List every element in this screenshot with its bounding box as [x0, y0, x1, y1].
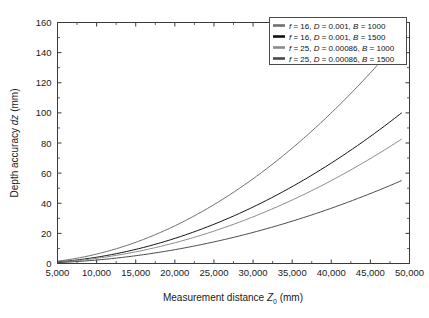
x-tick-label: 20,000	[160, 267, 189, 278]
y-tick-label: 20	[41, 228, 52, 239]
x-axis-title: Measurement distance Z0 (mm)	[163, 292, 303, 305]
y-tick-label: 160	[36, 17, 52, 28]
legend-label-3: f = 25, D = 0.00086, B = 1500	[289, 55, 395, 64]
y-tick-label: 0	[46, 258, 51, 269]
x-tick-label: 45,000	[356, 267, 385, 278]
y-tick-label: 100	[36, 107, 52, 118]
x-tick-label: 10,000	[82, 267, 111, 278]
x-tick-label: 35,000	[278, 267, 307, 278]
legend-label-0: f = 16, D = 0.001, B = 1000	[289, 22, 386, 31]
x-tick-label: 25,000	[199, 267, 228, 278]
y-tick-label: 140	[36, 47, 52, 58]
x-tick-label: 40,000	[317, 267, 346, 278]
y-tick-label: 60	[41, 168, 52, 179]
y-tick-label: 120	[36, 77, 52, 88]
y-axis-title: Depth accuracy dz (mm)	[9, 89, 20, 198]
legend-label-1: f = 16, D = 0.001, B = 1500	[289, 33, 386, 42]
y-tick-label: 80	[41, 138, 52, 149]
x-tick-label: 15,000	[121, 267, 150, 278]
chart-figure: 5,00010,00015,00020,00025,00030,00035,00…	[0, 0, 429, 318]
x-tick-label: 50,000	[395, 267, 424, 278]
chart-legend: f = 16, D = 0.001, B = 1000f = 16, D = 0…	[270, 18, 407, 65]
y-tick-label: 40	[41, 198, 52, 209]
legend-label-2: f = 25, D = 0.00086, B = 1000	[289, 44, 395, 53]
depth-accuracy-line-chart: 5,00010,00015,00020,00025,00030,00035,00…	[0, 0, 429, 318]
x-tick-label: 30,000	[239, 267, 268, 278]
